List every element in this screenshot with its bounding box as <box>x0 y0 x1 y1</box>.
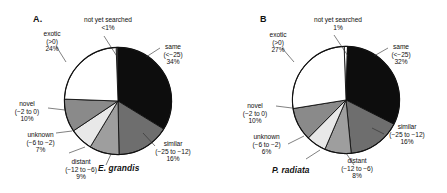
label-line-1: unknown <box>238 133 295 141</box>
figure-two-pie-charts: A. not yet searched <1% same (<−25) 34% <box>0 0 447 193</box>
pie-label-distant-b: distant (−12 to −6) 8% <box>328 157 386 180</box>
label-line-2: (−25 to −12) <box>142 148 204 156</box>
pie-label-unknown-a: unknown (−6 to −2) 7% <box>12 131 69 154</box>
pie-label-not-yet-searched-b: not yet searched 1% <box>302 16 374 31</box>
label-line-3: 27% <box>256 46 300 54</box>
pie-label-same-a: same (<−25) 34% <box>150 43 196 66</box>
panel-b: B not yet searched 1% same (<−25) 32% <box>224 0 447 193</box>
label-line-2: (>0) <box>30 38 74 46</box>
pie-label-not-yet-searched-a: not yet searched <1% <box>72 16 144 31</box>
label-line-1: novel <box>2 100 52 108</box>
label-line-3: 1% <box>302 24 374 32</box>
label-line-3: 32% <box>378 58 424 66</box>
pie-label-novel-a: novel (−2 to 0) 10% <box>2 100 52 123</box>
label-line-2: (−6 to −2) <box>238 141 295 149</box>
label-line-1: unknown <box>12 131 69 139</box>
label-line-1: similar <box>374 123 440 131</box>
species-name-b: P. radiata <box>272 165 310 175</box>
label-line-3: 6% <box>238 148 295 156</box>
label-line-3: 7% <box>12 146 69 154</box>
panel-letter-b: B <box>260 14 267 24</box>
label-line-2: (<−25) <box>150 51 196 59</box>
label-line-1: not yet searched <box>302 16 374 24</box>
label-line-2: (<−25) <box>378 51 424 59</box>
pie-label-similar-a: similar (−25 to −12) 16% <box>142 140 204 163</box>
label-line-2: (−25 to −12) <box>374 131 440 139</box>
label-line-2: (−2 to 0) <box>230 110 280 118</box>
label-line-2: (−12 to −6) <box>328 165 386 173</box>
label-line-2: (−2 to 0) <box>2 108 52 116</box>
pie-label-similar-b: similar (−25 to −12) 16% <box>374 123 440 146</box>
label-line-1: novel <box>230 102 280 110</box>
label-line-3: 16% <box>142 155 204 163</box>
label-line-3: 9% <box>52 173 110 181</box>
label-line-1: exotic <box>256 31 300 39</box>
species-name-a: E. grandis <box>98 163 140 173</box>
label-line-3: 10% <box>2 115 52 123</box>
panel-letter-a: A. <box>33 14 42 24</box>
label-line-1: not yet searched <box>72 16 144 24</box>
label-line-3: 10% <box>230 117 280 125</box>
label-line-2: (−6 to −2) <box>12 139 69 147</box>
label-line-1: same <box>378 43 424 51</box>
pie-label-exotic-b: exotic (>0) 27% <box>256 31 300 54</box>
label-line-3: 34% <box>150 58 196 66</box>
label-line-1: similar <box>142 140 204 148</box>
pie-slice <box>64 47 118 101</box>
label-line-3: 8% <box>328 172 386 180</box>
label-line-1: same <box>150 43 196 51</box>
label-line-3: <1% <box>72 24 144 32</box>
label-line-2: (>0) <box>256 39 300 47</box>
pie-label-same-b: same (<−25) 32% <box>378 43 424 66</box>
panel-a: A. not yet searched <1% same (<−25) 34% <box>0 0 223 193</box>
label-line-1: exotic <box>30 30 74 38</box>
pie-label-unknown-b: unknown (−6 to −2) 6% <box>238 133 295 156</box>
pie-label-exotic-a: exotic (>0) 24% <box>30 30 74 53</box>
label-line-3: 24% <box>30 45 74 53</box>
pie-slice <box>292 46 346 108</box>
pie-label-novel-b: novel (−2 to 0) 10% <box>230 102 280 125</box>
label-line-1: distant <box>328 157 386 165</box>
label-line-3: 16% <box>374 138 440 146</box>
